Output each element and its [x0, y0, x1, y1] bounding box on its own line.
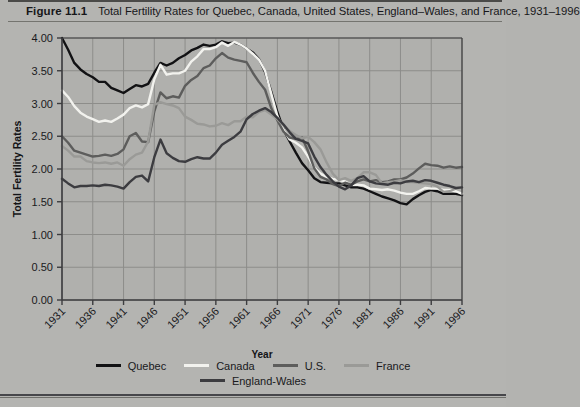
x-tick-label: 1966 — [257, 305, 283, 331]
x-tick-label: 1986 — [380, 305, 406, 331]
y-tick-label: 3.50 — [32, 65, 53, 77]
legend-item-england-wales[interactable]: England-Wales — [200, 375, 306, 387]
legend-item-quebec[interactable]: Quebec — [96, 360, 167, 372]
legend-label: England-Wales — [232, 375, 306, 387]
y-tick-label: 2.00 — [32, 163, 53, 175]
legend-row-primary: QuebecCanadaU.S.France — [0, 358, 506, 373]
legend-label: Quebec — [128, 360, 167, 372]
y-tick-label: 1.50 — [32, 196, 53, 208]
figure-number: Figure 11.1 — [26, 5, 87, 17]
y-tick-label: 2.50 — [32, 130, 53, 142]
x-tick-label: 1981 — [349, 305, 375, 331]
legend-item-france[interactable]: France — [344, 360, 410, 372]
x-tick-label: 1931 — [42, 305, 68, 331]
x-tick-label: 1941 — [103, 305, 129, 331]
fertility-line-chart: 0.000.501.001.502.002.503.003.504.001931… — [0, 22, 506, 362]
legend-label: France — [376, 360, 410, 372]
x-tick-label: 1951 — [165, 305, 191, 331]
x-tick-label: 1991 — [411, 305, 437, 331]
x-tick-label: 1961 — [226, 305, 252, 331]
y-tick-label: 3.00 — [32, 98, 53, 110]
y-tick-label: 1.00 — [32, 229, 53, 241]
figure-caption: Total Fertility Rates for Quebec, Canada… — [98, 5, 580, 17]
legend-swatch-line-icon — [184, 364, 209, 367]
x-tick-label: 1976 — [319, 305, 345, 331]
legend-swatch-line-icon — [200, 379, 225, 382]
legend-swatch-line-icon — [273, 364, 298, 367]
y-axis-title: Total Fertility Rates — [11, 121, 23, 218]
x-tick-label: 1996 — [442, 305, 468, 331]
footer-rule — [0, 394, 506, 396]
legend-item-canada[interactable]: Canada — [184, 360, 255, 372]
legend-label: Canada — [216, 360, 255, 372]
legend-swatch-line-icon — [96, 364, 121, 367]
legend-label: U.S. — [305, 360, 326, 372]
y-tick-label: 0.00 — [32, 294, 53, 306]
chart-plot-area: 0.000.501.001.502.002.503.003.504.001931… — [0, 22, 506, 362]
legend-row-secondary: England-Wales — [0, 373, 506, 388]
x-tick-label: 1936 — [72, 305, 98, 331]
figure-title-bar: Figure 11.1 Total Fertility Rates for Qu… — [8, 2, 502, 20]
legend-item-u-s-[interactable]: U.S. — [273, 360, 326, 372]
legend-swatch-line-icon — [344, 364, 369, 367]
footer-rule-secondary — [0, 397, 506, 398]
x-tick-label: 1946 — [134, 305, 160, 331]
y-tick-label: 0.50 — [32, 261, 53, 273]
x-tick-label: 1971 — [288, 305, 314, 331]
chart-legend: QuebecCanadaU.S.France England-Wales — [0, 358, 506, 392]
x-tick-label: 1956 — [195, 305, 221, 331]
y-tick-label: 4.00 — [32, 32, 53, 44]
